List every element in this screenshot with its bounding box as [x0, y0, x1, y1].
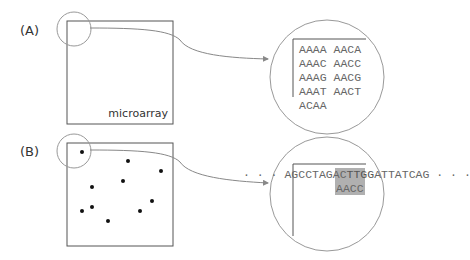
diagram-canvas: (A) microarray AAAA AACA AAAC AACC AAAG … [0, 0, 470, 260]
microarray-box-b [67, 143, 173, 246]
zoom-circle-b [270, 137, 384, 251]
panel-b: (B) · · · AGCCTAGACTTGGATTATCAG · · · AA… [20, 134, 470, 251]
dna-sequence: · · · AGCCTAGACTTGGATTATCAG · · · [243, 168, 470, 181]
spot-dot [159, 169, 163, 173]
spot-dot [80, 209, 84, 213]
spot-dot [138, 209, 142, 213]
probe-row: AAAT AACT [299, 85, 361, 98]
probe-sequence: AACC [336, 182, 364, 195]
panel-a: (A) microarray AAAA AACA AAAC AACC AAAG … [20, 12, 384, 134]
panel-b-label: (B) [20, 144, 39, 159]
connector-arrow-b [90, 150, 268, 183]
spot-dots [80, 150, 163, 223]
spot-dot [80, 150, 84, 154]
spot-dot [150, 199, 154, 203]
panel-a-label: (A) [20, 23, 39, 38]
microarray-caption: microarray [108, 107, 168, 120]
connector-arrow-a [90, 28, 268, 59]
zoom-source-circle-a [57, 12, 91, 46]
probe-row: AAAA AACA [299, 43, 361, 56]
spot-dot [121, 179, 125, 183]
probe-row: AAAG AACG [299, 71, 361, 84]
zoom-source-circle-b [57, 134, 91, 168]
spot-dot [126, 159, 130, 163]
spot-dot [90, 185, 94, 189]
probe-row: AAAC AACC [299, 57, 361, 70]
probe-row: ACAA [299, 99, 327, 112]
spot-dot [90, 205, 94, 209]
spot-dot [106, 219, 110, 223]
